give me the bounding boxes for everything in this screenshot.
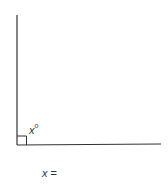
right-angle-diagram [0,0,168,185]
degree-symbol: o [35,122,39,129]
horizontal-ray [17,144,161,145]
answer-prompt: x = [42,168,57,179]
equals-sign: = [48,167,57,179]
right-angle-marker [17,136,27,145]
angle-variable: x [29,124,35,136]
angle-label: xo [29,123,38,136]
